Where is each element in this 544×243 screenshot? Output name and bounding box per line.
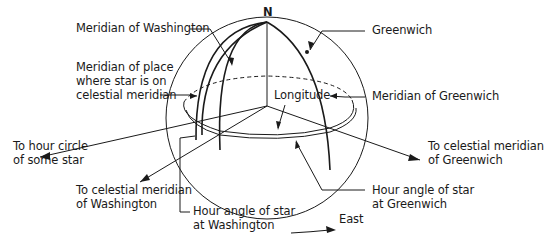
equator-front (184, 100, 354, 135)
pole-label-n: N (263, 6, 273, 20)
east-arrowhead (326, 226, 336, 233)
meridian-place (196, 22, 267, 135)
label-meridian-greenwich: Meridian of Greenwich (372, 90, 499, 104)
east-arrow (291, 230, 330, 233)
label-hour-circle-2: of some star (13, 154, 84, 168)
label-hour-circle-1: To hour circle (13, 140, 88, 154)
label-celestial-meridian-greenwich-2: of Greenwich (428, 154, 503, 168)
arrowhead-meridian-place (190, 93, 197, 99)
radial-greenwich (267, 106, 420, 160)
label-meridian-place-2: where star is on (76, 75, 166, 89)
label-meridian-place-1: Meridian of place (76, 61, 173, 75)
arrowhead-greenwich (408, 154, 420, 161)
meridian-left-edge (196, 22, 267, 140)
greenwich-point (305, 50, 309, 54)
label-hour-angle-washington-1: Hour angle of star (193, 205, 295, 219)
arrowhead-meridian-washington (228, 57, 234, 66)
radial-washington (140, 106, 267, 182)
label-greenwich: Greenwich (372, 24, 432, 38)
arrowhead-washington (140, 174, 150, 182)
label-hour-angle-washington-2: at Washington (193, 219, 275, 233)
label-hour-angle-greenwich-1: Hour angle of star (372, 184, 474, 198)
label-celestial-meridian-washington-2: of Washington (76, 198, 157, 212)
leader-hour-angle-washington (180, 136, 195, 212)
label-east: East (339, 213, 363, 227)
label-longitude: Longitude (274, 89, 330, 103)
label-celestial-meridian-washington-1: To celestial meridian (76, 184, 192, 198)
equator-band (186, 108, 356, 138)
arrowhead-meridian-greenwich (330, 93, 337, 99)
leader-greenwich (310, 31, 365, 50)
label-meridian-place-3: celestial meridian (76, 89, 177, 103)
arrowhead-longitude (276, 121, 281, 130)
label-celestial-meridian-greenwich-1: To celestial meridian (428, 140, 544, 154)
label-hour-angle-greenwich-2: at Greenwich (372, 198, 447, 212)
label-meridian-washington: Meridian of Washington (76, 22, 210, 36)
